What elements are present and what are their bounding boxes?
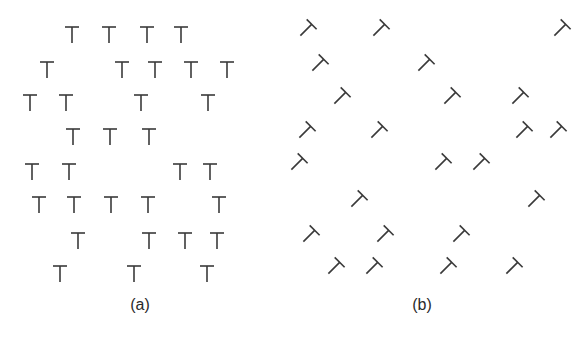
upright-t-element: [62, 24, 82, 46]
tilted-t-element: [508, 87, 528, 109]
t-stem: [351, 195, 362, 206]
upright-t-element: [101, 194, 121, 216]
upright-t-element: [29, 194, 49, 216]
tilted-t-element: [440, 87, 460, 109]
tilted-t-element: [287, 153, 307, 175]
upright-t-element: [63, 126, 83, 148]
upright-t-element: [145, 59, 165, 81]
t-stem: [299, 126, 310, 137]
upright-t-element: [197, 263, 217, 285]
t-stem: [435, 158, 446, 169]
tilted-t-element: [369, 19, 389, 41]
tilted-t-element: [512, 121, 532, 143]
upright-t-element: [138, 194, 158, 216]
tilted-t-element: [324, 257, 344, 279]
t-stem: [418, 59, 429, 70]
tilted-t-element: [550, 19, 570, 41]
tilted-t-element: [367, 121, 387, 143]
upright-t-element: [131, 92, 151, 114]
tilted-t-element: [436, 257, 456, 279]
tilted-t-element: [296, 19, 316, 41]
tilted-t-element: [431, 153, 451, 175]
caption-b: (b): [412, 296, 432, 314]
t-stem: [291, 158, 302, 169]
t-stem: [328, 262, 339, 273]
tilted-t-element: [414, 54, 434, 76]
upright-t-element: [207, 230, 227, 252]
upright-t-element: [175, 230, 195, 252]
tilted-t-element: [373, 225, 393, 247]
tilted-t-element: [502, 257, 522, 279]
upright-t-element: [50, 263, 70, 285]
t-stem: [554, 24, 565, 35]
t-stem: [473, 158, 484, 169]
upright-t-element: [170, 161, 190, 183]
figure-canvas: (a) (b): [0, 0, 588, 340]
t-stem: [371, 126, 382, 137]
t-stem: [366, 262, 377, 273]
t-stem: [300, 24, 311, 35]
t-stem: [444, 92, 455, 103]
upright-t-element: [64, 194, 84, 216]
upright-t-element: [112, 59, 132, 81]
tilted-t-element: [308, 54, 328, 76]
upright-t-element: [181, 59, 201, 81]
tilted-t-element: [449, 225, 469, 247]
t-stem: [550, 126, 561, 137]
upright-t-element: [198, 92, 218, 114]
upright-t-element: [56, 92, 76, 114]
t-stem: [512, 92, 523, 103]
tilted-t-element: [362, 257, 382, 279]
upright-t-element: [59, 161, 79, 183]
upright-t-element: [68, 230, 88, 252]
tilted-t-element: [299, 225, 319, 247]
upright-t-element: [200, 161, 220, 183]
tilted-t-element: [330, 87, 350, 109]
t-stem: [453, 230, 464, 241]
t-stem: [377, 230, 388, 241]
tilted-t-element: [347, 190, 367, 212]
upright-t-element: [209, 194, 229, 216]
upright-t-element: [124, 263, 144, 285]
t-stem: [312, 59, 323, 70]
upright-t-element: [171, 24, 191, 46]
panel-b-tilted-ts: [280, 0, 588, 340]
upright-t-element: [139, 230, 159, 252]
tilted-t-element: [469, 153, 489, 175]
upright-t-element: [217, 59, 237, 81]
tilted-t-element: [524, 190, 544, 212]
caption-a: (a): [130, 296, 150, 314]
upright-t-element: [37, 59, 57, 81]
upright-t-element: [100, 126, 120, 148]
upright-t-element: [99, 24, 119, 46]
upright-t-element: [20, 92, 40, 114]
t-stem: [506, 262, 517, 273]
panel-a-upright-ts: [0, 0, 290, 340]
upright-t-element: [137, 24, 157, 46]
tilted-t-element: [546, 121, 566, 143]
upright-t-element: [139, 126, 159, 148]
t-stem: [516, 126, 527, 137]
t-stem: [528, 195, 539, 206]
t-stem: [373, 24, 384, 35]
tilted-t-element: [295, 121, 315, 143]
t-stem: [334, 92, 345, 103]
t-stem: [440, 262, 451, 273]
upright-t-element: [22, 161, 42, 183]
t-stem: [303, 230, 314, 241]
